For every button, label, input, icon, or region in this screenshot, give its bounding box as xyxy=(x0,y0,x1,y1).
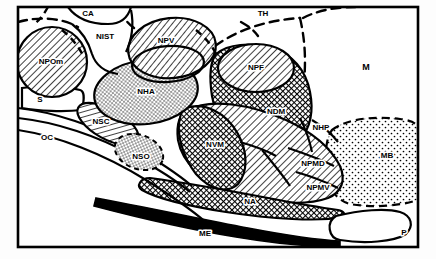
region-label-M: M xyxy=(362,62,370,72)
hypothalamus-sagittal-diagram: CACANISTNISTNPOmNPOmNPVNPVNHANHASSOCOCNS… xyxy=(0,0,436,259)
region-label-NHP: NHP xyxy=(313,123,331,132)
region-label-NDM: NDM xyxy=(267,107,286,116)
region-label-NHA: NHA xyxy=(137,87,155,96)
region-label-NSO: NSO xyxy=(132,152,149,161)
region-label-CA: CA xyxy=(82,9,94,18)
region-MB xyxy=(326,118,418,206)
region-label-OC: OC xyxy=(41,133,53,142)
region-label-P: P xyxy=(401,228,407,237)
region-label-NPV: NPV xyxy=(158,36,175,45)
region-P xyxy=(330,210,411,242)
region-label-NVM: NVM xyxy=(206,140,224,149)
figure-canvas: CACANISTNISTNPOmNPOmNPVNPVNHANHASSOCOCNS… xyxy=(0,0,436,259)
region-label-NSC: NSC xyxy=(93,117,110,126)
region-label-NPF: NPF xyxy=(248,63,264,72)
region-label-MB: MB xyxy=(381,151,394,160)
region-label-NPMV: NPMV xyxy=(306,183,330,192)
region-label-ME: ME xyxy=(199,229,212,238)
region-label-S: S xyxy=(37,95,43,104)
region-label-NPOm: NPOm xyxy=(39,57,63,66)
region-label-TH: TH xyxy=(258,9,269,18)
region-label-NPMD: NPMD xyxy=(301,159,325,168)
region-label-NIST: NIST xyxy=(96,32,114,41)
region-label-NA: NA xyxy=(244,197,256,206)
